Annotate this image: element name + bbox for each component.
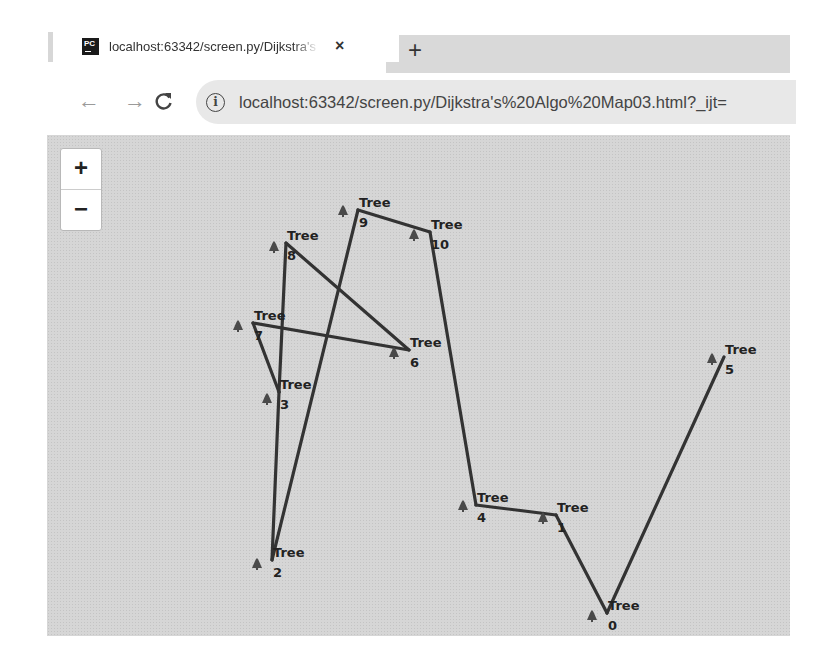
tree-node-8[interactable]: Tree8 <box>269 228 319 263</box>
tree-marker-icon[interactable] <box>587 610 597 622</box>
node-label: Tree <box>287 228 319 243</box>
node-id: 2 <box>273 565 282 580</box>
forward-arrow-icon[interactable]: → <box>124 88 146 114</box>
route-edge-9-10 <box>358 210 430 232</box>
zoom-control: + − <box>60 148 102 231</box>
node-label: Tree <box>477 490 509 505</box>
site-info-icon[interactable]: i <box>206 93 225 112</box>
tree-marker-icon[interactable] <box>252 558 262 570</box>
address-bar[interactable]: i localhost:63342/screen.py/Dijkstra's%2… <box>196 80 796 124</box>
tree-marker-icon[interactable] <box>233 320 243 332</box>
node-id: 7 <box>254 328 263 343</box>
node-label: Tree <box>725 342 757 357</box>
node-label: Tree <box>280 377 312 392</box>
node-label: Tree <box>431 217 463 232</box>
route-edge-0-5 <box>607 357 724 613</box>
node-label: Tree <box>410 335 442 350</box>
tree-node-10[interactable]: Tree10 <box>409 217 463 252</box>
browser-tab-strip: + PC localhost:63342/screen.py/Dijkstra'… <box>48 30 790 62</box>
tab-title: localhost:63342/screen.py/Dijkstra's Alg… <box>109 39 319 54</box>
node-id: 9 <box>359 215 368 230</box>
node-label: Tree <box>557 500 589 515</box>
new-tab-button[interactable]: + <box>408 37 422 63</box>
node-label: Tree <box>273 545 305 560</box>
reload-icon[interactable] <box>154 88 174 117</box>
node-id: 3 <box>280 397 289 412</box>
tree-marker-icon[interactable] <box>409 229 419 241</box>
route-edge-6-7 <box>253 323 409 350</box>
tree-marker-icon[interactable] <box>458 500 468 512</box>
tab-strip-background: + <box>386 35 790 73</box>
node-id: 8 <box>287 248 296 263</box>
tree-node-3[interactable]: Tree3 <box>262 377 312 412</box>
node-id: 5 <box>725 362 734 377</box>
node-id: 0 <box>608 618 617 633</box>
node-id: 4 <box>477 510 486 525</box>
map-canvas[interactable]: Tree0Tree1Tree2Tree3Tree4Tree5Tree6Tree7… <box>47 135 790 636</box>
tree-marker-icon[interactable] <box>338 205 348 217</box>
tree-node-0[interactable]: Tree0 <box>587 598 640 633</box>
route-edge-10-4 <box>430 232 476 505</box>
tree-marker-icon[interactable] <box>262 393 272 405</box>
url-text[interactable]: localhost:63342/screen.py/Dijkstra's%20A… <box>239 93 727 112</box>
pycharm-favicon-icon: PC <box>82 38 99 55</box>
node-label: Tree <box>359 195 391 210</box>
browser-toolbar: ← → i localhost:63342/screen.py/Dijkstra… <box>48 80 790 124</box>
node-id: 10 <box>431 237 449 252</box>
zoom-in-button[interactable]: + <box>61 149 101 190</box>
tree-node-2[interactable]: Tree2 <box>252 545 305 580</box>
graph-layer: Tree0Tree1Tree2Tree3Tree4Tree5Tree6Tree7… <box>47 135 790 636</box>
tree-node-5[interactable]: Tree5 <box>707 342 757 377</box>
node-label: Tree <box>254 308 286 323</box>
tree-marker-icon[interactable] <box>269 241 279 253</box>
tree-node-1[interactable]: Tree1 <box>538 500 589 535</box>
node-id: 1 <box>557 520 566 535</box>
node-label: Tree <box>608 598 640 613</box>
zoom-out-button[interactable]: − <box>61 190 101 230</box>
close-tab-icon[interactable]: × <box>335 37 344 55</box>
previous-tab-edge[interactable] <box>48 32 53 62</box>
active-tab[interactable]: PC localhost:63342/screen.py/Dijkstra's … <box>54 30 399 62</box>
tree-marker-icon[interactable] <box>707 353 717 365</box>
node-id: 6 <box>410 355 419 370</box>
back-arrow-icon[interactable]: ← <box>78 88 100 114</box>
